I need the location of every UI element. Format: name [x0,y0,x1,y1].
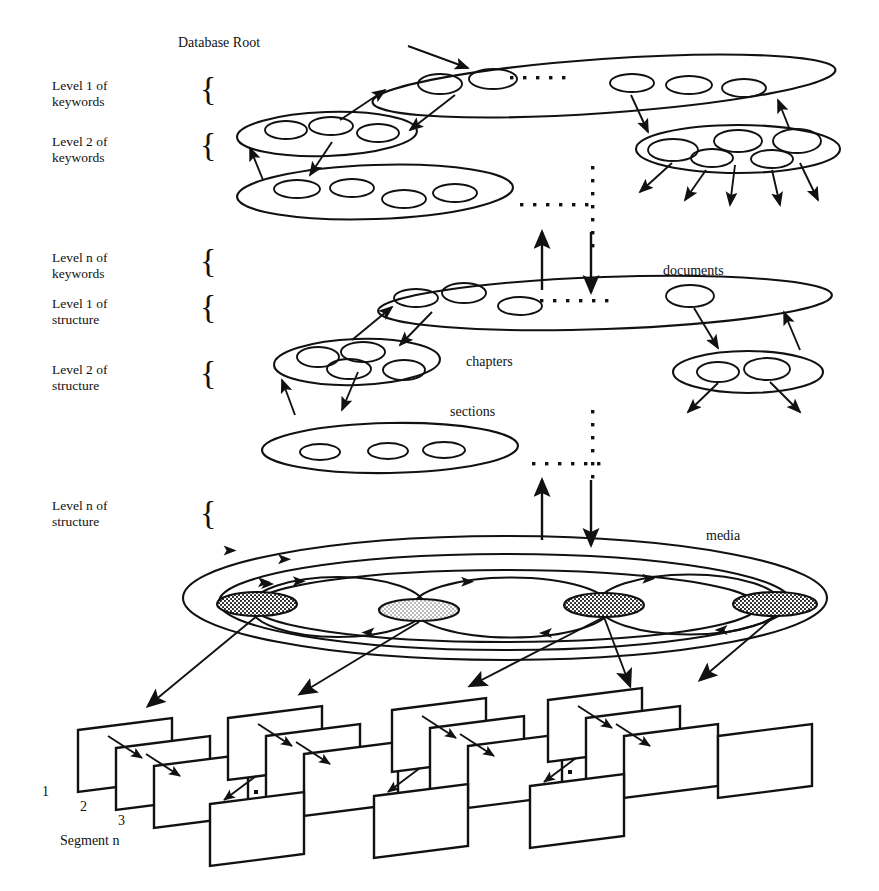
media-ring-arrow-1 [224,545,237,555]
segment-trailing-dot-0 [254,790,258,794]
segment-lower-card-2 [374,784,468,858]
layer-node-2 [610,74,654,92]
page-title: Database Root [178,34,260,51]
chapters-right-fanout-arrow-0 [688,383,718,412]
level-label-line1: Level n of [52,250,107,266]
layer-node-0 [297,347,339,367]
layer-node-1 [309,117,353,135]
segment-trailing-dot-2 [568,770,572,774]
segment-label-seg2: 2 [80,798,87,815]
layer-documents-layer [377,269,833,337]
brace-kw1: { [200,72,216,106]
layer-node-2 [327,359,371,379]
level-label-line2: keywords [52,150,107,166]
level-label-st1: Level 1 ofstructure [52,296,107,329]
ellipsis-kw2-dots-h [520,203,588,206]
chapters-right-fanout-arrow-1 [770,382,800,412]
layer-node-2 [498,297,542,315]
brace-stn: { [200,496,216,530]
ellipsis-root-dots-h [510,76,565,79]
layer-node-3 [433,184,477,202]
kw2right-fanout-arrow-0 [640,163,672,192]
kwn-to-kw2left-arrow [250,148,263,180]
media-to-segment-arrow-3 [604,617,630,686]
kw2left-to-root-arrow [340,90,385,120]
media-ring-arrow-3 [278,554,291,564]
chapters-to-documents-arrow [352,307,392,340]
layer-node-1 [442,283,486,303]
ellipsis-docs-dots-h [540,299,608,302]
layer-node-4 [773,129,821,153]
level-label-st2: Level 2 ofstructure [52,362,107,395]
level-label-kw2: Level 2 ofkeywords [52,134,107,167]
root-to-kw2right-arrow [631,95,648,132]
level-label-line1: Level 2 of [52,134,107,150]
level-label-line1: Level 2 of [52,362,107,378]
layer-keyword-level-n [236,160,514,224]
segment-label-seg1: 1 [42,783,49,800]
level-label-line2: keywords [52,266,107,282]
layer-database-root [371,43,838,129]
kw2right-to-root-arrow [778,100,790,130]
layer-node-4 [722,79,766,97]
kw2right-fanout-arrow-4 [800,163,818,200]
level-label-line1: Level 1 of [52,296,107,312]
media-to-segment-arrow-4 [700,616,775,680]
layer-node-3 [666,76,712,94]
level-label-stn: Level n ofstructure [52,498,107,531]
node-label-sections: sections [450,403,495,420]
layer-node-0 [418,74,462,94]
chapters-right-to-documents-arrow [784,312,800,350]
layer-chapters-layer-right [673,351,823,393]
kw2right-fanout-arrow-1 [685,170,706,200]
ellipsis-sections-dots-h [532,462,600,465]
layer-node-1 [330,179,374,197]
level-label-kw1: Level 1 ofkeywords [52,78,107,111]
layer-node-0 [265,121,307,139]
segment-card-4-0 [718,724,812,798]
node-label-chapters: chapters [466,353,513,370]
layer-node-2 [423,442,465,458]
segment-label-segn: Segment n [60,832,120,849]
media-node-3 [564,593,644,617]
layer-node-1 [744,358,790,380]
layer-node-3 [666,285,714,307]
brace-kwn: { [200,244,216,278]
media-to-segment-arrow-1 [300,622,419,694]
node-label-documents: documents [663,262,724,279]
media-to-segment-arrow-2 [470,617,604,686]
segment-lower-card-1 [210,792,304,866]
kw2right-fanout-arrow-3 [772,170,780,205]
segment-cards-group [78,688,812,866]
layer-node-2 [382,190,426,208]
level-label-kwn: Level n ofkeywords [52,250,107,283]
level-label-line2: structure [52,312,107,328]
diagram-canvas: Database Root Level 1 ofkeywords{Level 2… [0,0,879,891]
layer-node-0 [697,362,739,382]
sections-to-chapters-arrow [282,380,295,415]
diagram-svg [0,0,879,891]
layer-node-0 [274,180,320,198]
layer-keyword-level2-left [236,109,417,159]
media-node-1 [217,592,297,616]
layer-sections-layer [262,421,519,475]
media-to-segment-arrow-0 [148,616,257,706]
segment-card-3-2 [624,724,718,798]
layer-node-2 [714,130,762,152]
brace-kw2: { [200,128,216,162]
level-label-line1: Level 1 of [52,78,107,94]
layer-chapters-layer-left [273,336,441,388]
kw2left-to-kwn-arrow [310,142,332,175]
media-ring-outline-2 [253,570,757,642]
media-node-2 [379,599,459,621]
documents-to-chapters-arrow [400,312,432,345]
chapters-to-sections-arrow [342,372,358,410]
layer-node-3 [383,360,425,380]
documents-to-chapters-right-arrow [694,308,718,348]
brace-st1: { [200,290,216,324]
layer-node-2 [357,124,399,142]
brace-st2: { [200,356,216,390]
level-label-line1: Level n of [52,498,107,514]
layer-node-1 [368,443,408,459]
kw2right-fanout-arrow-2 [730,165,735,205]
